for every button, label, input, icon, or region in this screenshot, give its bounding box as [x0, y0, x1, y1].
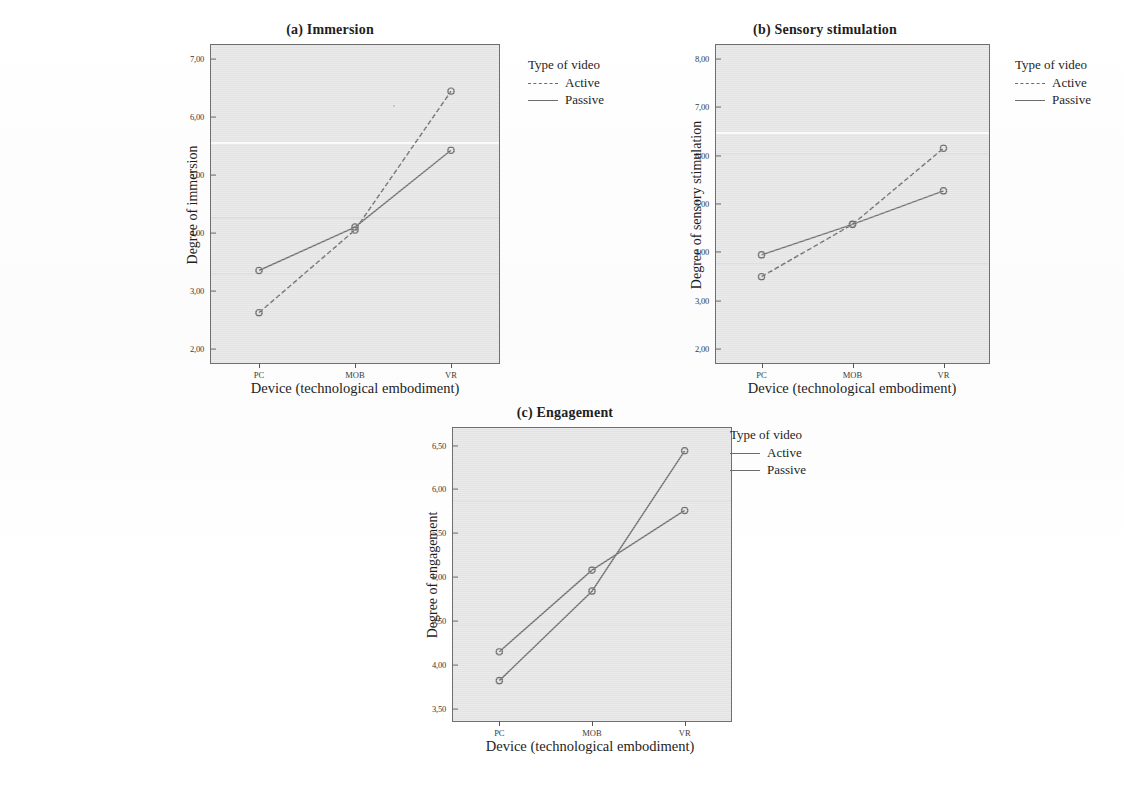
- chart-panel-immersion: (a) Immersion 2,003,004,005,006,007,00PC…: [160, 22, 660, 397]
- legend-item-active-c[interactable]: Active: [730, 445, 806, 461]
- plot-area-c: 3,504,004,505,005,506,006,50PCMOBVR: [452, 427, 732, 722]
- legend-line-dashed-icon: [1015, 83, 1045, 84]
- series-line-passive: [259, 150, 451, 270]
- x-axis-tick-mark: [451, 363, 452, 368]
- legend-line-solid-icon: [730, 453, 760, 454]
- x-axis-label-b: Device (technological embodiment): [687, 380, 1017, 397]
- legend-label-passive-a: Passive: [565, 92, 604, 108]
- legend-title-c: Type of video: [730, 427, 806, 443]
- y-axis-tick-label: 6,50: [432, 441, 453, 451]
- x-axis-tick-label: PC: [494, 728, 504, 738]
- x-axis-tick-label: VR: [679, 728, 691, 738]
- series-layer: [211, 45, 499, 363]
- x-axis-tick-mark: [259, 363, 260, 368]
- legend-label-passive-b: Passive: [1052, 92, 1091, 108]
- legend-b: Type of video Active Passive: [1015, 57, 1091, 108]
- series-line-active: [762, 148, 944, 276]
- legend-line-dashed-icon: [528, 83, 558, 84]
- y-axis-tick-label: 8,00: [695, 54, 716, 64]
- x-axis-tick-mark: [685, 721, 686, 726]
- series-line-passive: [499, 510, 684, 651]
- x-axis-tick-mark: [853, 363, 854, 368]
- x-axis-tick-mark: [355, 363, 356, 368]
- legend-line-solid-icon: [1015, 100, 1045, 101]
- legend-label-passive-c: Passive: [767, 462, 806, 478]
- legend-item-passive-a[interactable]: Passive: [528, 92, 604, 108]
- series-line-active: [259, 91, 451, 312]
- y-axis-tick-label: 2,00: [695, 344, 716, 354]
- chart-panel-engagement: (c) Engagement 3,504,004,505,005,506,006…: [400, 405, 900, 780]
- legend-title-a: Type of video: [528, 57, 604, 73]
- x-axis-tick-label: PC: [254, 370, 264, 380]
- data-point-marker: [940, 145, 946, 151]
- x-axis-label-c: Device (technological embodiment): [425, 738, 755, 755]
- y-axis-label-c: Degree of engagement: [425, 470, 441, 680]
- chart-panel-sensory-stimulation: (b) Sensory stimulation 2,003,004,005,00…: [665, 22, 1124, 397]
- x-axis-tick-label: VR: [445, 370, 457, 380]
- x-axis-tick-label: MOB: [843, 370, 862, 380]
- legend-label-active-b: Active: [1052, 75, 1087, 91]
- y-axis-tick-label: 3,50: [432, 704, 453, 714]
- x-axis-tick-label: MOB: [345, 370, 364, 380]
- x-axis-tick-mark: [762, 363, 763, 368]
- legend-item-active-b[interactable]: Active: [1015, 75, 1091, 91]
- legend-title-b: Type of video: [1015, 57, 1091, 73]
- series-layer: [453, 428, 731, 721]
- legend-a: Type of video Active Passive: [528, 57, 604, 108]
- legend-label-active-c: Active: [767, 445, 802, 461]
- plot-area-a: 2,003,004,005,006,007,00PCMOBVR: [210, 44, 500, 364]
- legend-item-active-a[interactable]: Active: [528, 75, 604, 91]
- legend-item-passive-b[interactable]: Passive: [1015, 92, 1091, 108]
- legend-label-active-a: Active: [565, 75, 600, 91]
- x-axis-label-a: Device (technological embodiment): [190, 380, 520, 397]
- legend-item-passive-c[interactable]: Passive: [730, 462, 806, 478]
- data-point-marker: [496, 649, 502, 655]
- x-axis-tick-label: MOB: [582, 728, 601, 738]
- x-axis-tick-label: VR: [938, 370, 950, 380]
- y-axis-label-a: Degree of immersion: [185, 110, 201, 300]
- x-axis-tick-mark: [499, 721, 500, 726]
- legend-c: Type of video Active Passive: [730, 427, 806, 478]
- x-axis-tick-mark: [944, 363, 945, 368]
- y-axis-tick-label: 7,00: [190, 54, 211, 64]
- y-axis-tick-label: 2,00: [190, 344, 211, 354]
- series-line-active: [499, 451, 684, 681]
- series-line-passive: [762, 191, 944, 255]
- x-axis-tick-mark: [592, 721, 593, 726]
- series-layer: [716, 45, 989, 363]
- y-axis-label-b: Degree of sensory stimulation: [689, 85, 705, 325]
- x-axis-tick-label: PC: [756, 370, 766, 380]
- plot-area-b: 2,003,004,005,006,007,008,00PCMOBVR: [715, 44, 990, 364]
- legend-line-solid-icon: [730, 470, 760, 471]
- legend-line-solid-icon: [528, 100, 558, 101]
- data-point-marker: [496, 678, 502, 684]
